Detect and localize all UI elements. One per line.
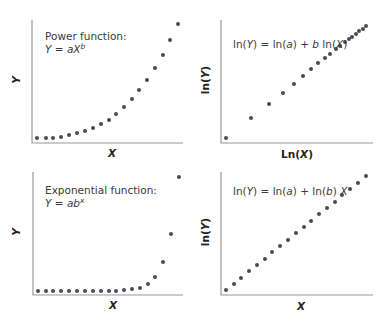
data-point [59,135,63,139]
data-point [247,269,251,273]
data-point [176,22,180,26]
x-axis-label: Ln(X) [281,148,313,160]
data-point [239,276,243,280]
data-point [83,129,87,133]
x-axis-label: X [108,299,118,311]
data-point [67,289,71,293]
data-point [286,238,290,242]
data-point [364,24,368,28]
panel-exponential-function: Exponential function: Y = abx X Y [10,172,183,311]
data-point [348,187,352,191]
data-point [91,289,95,293]
data-point [267,102,271,106]
data-point [350,35,354,39]
data-point [99,289,103,293]
data-point [99,122,103,126]
data-point [75,289,79,293]
data-point [249,116,253,120]
data-point [75,131,79,135]
data-point [294,231,298,235]
data-point [91,126,95,130]
data-point [83,289,87,293]
data-point [44,136,48,140]
data-point [354,32,358,36]
data-point [138,286,142,290]
data-point [51,289,55,293]
data-point [114,289,118,293]
data-point [333,200,337,204]
data-point [224,136,228,140]
equation: Y = abx [45,196,85,209]
data-point [364,174,368,178]
data-point [35,136,39,140]
data-point [323,56,327,60]
data-point [255,263,259,267]
data-point [263,257,267,261]
data-point [309,219,313,223]
data-point [114,112,118,116]
data-point [168,38,172,42]
data-point [224,288,228,292]
equation: ln(Y) = ln(a) + b ln(X) [233,38,347,50]
data-point [146,282,150,286]
data-point [130,287,134,291]
data-point [107,289,111,293]
panel-log-log: ln(Y) = ln(a) + b ln(X) Ln(X) ln(Y) [199,20,373,160]
data-point [232,282,236,286]
data-point [122,288,126,292]
data-point [153,66,157,70]
data-point [153,275,157,279]
data-point [278,244,282,248]
data-point [130,97,134,101]
x-axis-label: X [296,300,306,312]
data-point [137,88,141,92]
y-axis-label: ln(Y) [199,66,211,94]
data-point [51,136,55,140]
data-point [44,289,48,293]
panel-title: Power function: [45,30,127,42]
y-axis-label: Y [10,227,22,236]
data-point [161,260,165,264]
equation: Y = aXb [45,42,86,55]
figure: Power function: Y = aXb X Y ln(Y) = ln(a… [0,0,383,324]
x-axis-label: X [107,147,117,159]
data-point [161,53,165,57]
data-point [328,52,332,56]
equation: ln(Y) = ln(a) + ln(b) X [233,185,348,197]
panel-power-function: Power function: Y = aXb X Y [10,20,183,159]
data-point [316,61,320,65]
data-point [325,206,329,210]
data-point [301,74,305,78]
data-point [67,133,71,137]
data-point [270,250,274,254]
data-point [59,289,63,293]
data-point [281,91,285,95]
data-point [317,212,321,216]
data-point [107,118,111,122]
y-axis-label: Y [10,75,22,84]
data-point [36,289,40,293]
data-point [357,29,361,33]
data-point [292,82,296,86]
y-axis-label: ln(Y) [199,218,211,246]
data-point [361,27,365,31]
data-point [169,232,173,236]
data-point [122,105,126,109]
data-point [302,225,306,229]
panel-title: Exponential function: [45,184,157,196]
data-point [309,67,313,71]
panel-semi-log: ln(Y) = ln(a) + ln(b) X X ln(Y) [199,172,373,312]
data-point [356,181,360,185]
data-point [145,78,149,82]
data-point [177,175,181,179]
